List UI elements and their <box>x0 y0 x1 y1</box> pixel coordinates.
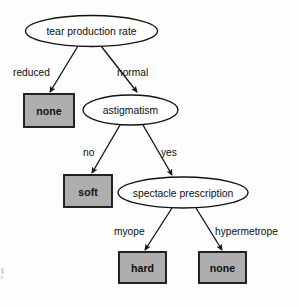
edge-label-hypermetrope: hypermetrope <box>215 226 278 237</box>
decision-node-label: spectacle prescription <box>133 188 234 199</box>
decision-tree-diagram: tear production rate astigmatism spectac… <box>0 0 299 307</box>
edge-label-reduced: reduced <box>13 67 50 78</box>
leaf-node-soft[interactable]: soft <box>64 175 112 207</box>
tree-canvas: tear production rate astigmatism spectac… <box>0 0 299 307</box>
decision-node-astigmatism[interactable]: astigmatism <box>83 95 178 125</box>
edge-label-yes: yes <box>161 147 177 158</box>
leaf-node-label: none <box>36 105 61 117</box>
leaf-node-label: soft <box>78 186 98 198</box>
edge-line-no <box>92 125 120 173</box>
decision-node-root[interactable]: tear production rate <box>26 16 158 47</box>
decision-node-label: tear production rate <box>46 26 136 37</box>
scan-artifact <box>1 276 3 279</box>
decision-node-label: astigmatism <box>103 105 158 116</box>
leaf-node-none-hypermetrope[interactable]: none <box>199 252 246 283</box>
leaf-node-label: hard <box>131 262 154 274</box>
leaf-node-label: none <box>210 262 235 274</box>
edge-line-reduced <box>50 46 78 92</box>
edge-label-myope: myope <box>114 226 145 237</box>
leaf-node-none-reduced[interactable]: none <box>24 94 74 127</box>
decision-node-spectacle-prescription[interactable]: spectacle prescription <box>118 177 248 208</box>
edge-line-myope <box>145 208 172 250</box>
leaf-node-hard[interactable]: hard <box>119 252 166 283</box>
edge-label-no: no <box>83 147 95 158</box>
edge-label-group: reduced normal no yes myope hypermetrope <box>13 67 278 237</box>
scan-artifact <box>1 268 4 274</box>
edge-label-normal: normal <box>117 67 148 78</box>
